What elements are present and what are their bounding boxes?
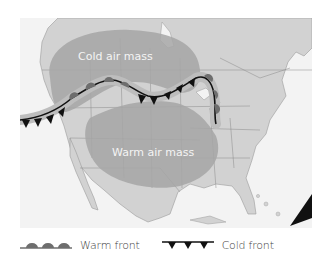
warm-air-mass-label: Warm air mass <box>112 146 194 159</box>
cold-air-mass-label: Cold air mass <box>78 50 153 63</box>
legend: Warm front Cold front <box>20 233 320 257</box>
legend-warm-front: Warm front <box>20 239 140 252</box>
weather-map: Cold air mass Warm air mass <box>20 18 312 228</box>
legend-cold-label: Cold front <box>222 239 274 252</box>
legend-warm-label: Warm front <box>80 239 140 252</box>
cold-front-icon <box>162 240 214 250</box>
map-graphic: Cold air mass Warm air mass <box>20 18 312 228</box>
legend-cold-front: Cold front <box>162 239 274 252</box>
warm-front-icon <box>20 240 72 250</box>
